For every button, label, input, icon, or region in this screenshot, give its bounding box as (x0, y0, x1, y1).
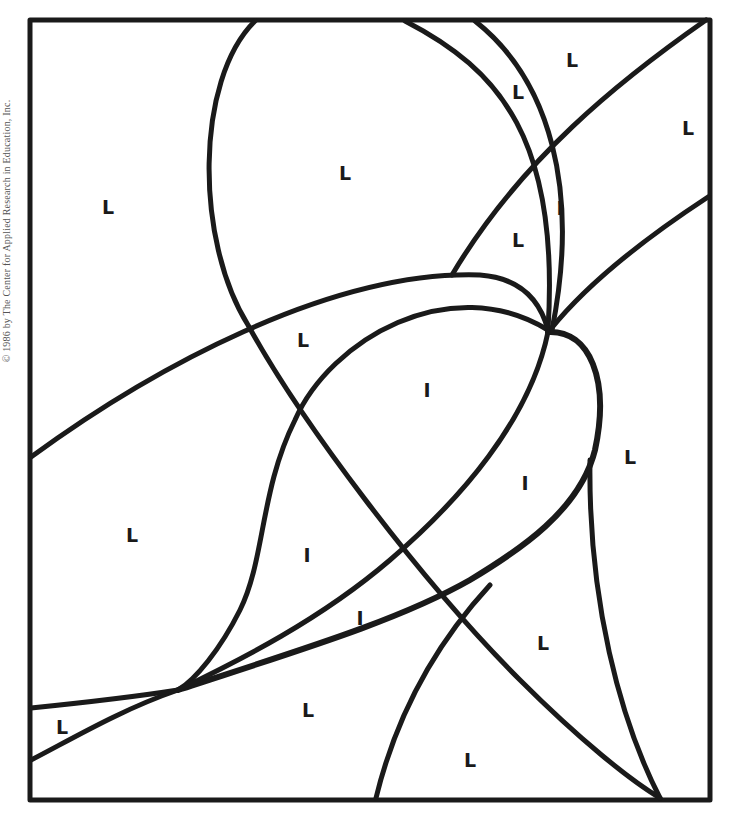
region-label: L (297, 331, 309, 350)
region-label: I (303, 546, 310, 565)
region-label: I (556, 199, 563, 218)
region-label: L (537, 634, 549, 653)
region-label: L (302, 701, 314, 720)
curve-right-drop (590, 460, 660, 798)
region-label: I (521, 474, 528, 493)
region-label: L (464, 751, 476, 770)
line-diagonal-right (550, 197, 708, 330)
region-label: L (624, 448, 636, 467)
region-label: I (356, 609, 363, 628)
region-label: I (423, 381, 430, 400)
region-label: L (682, 119, 694, 138)
region-label: L (566, 51, 578, 70)
region-label: L (102, 198, 114, 217)
region-label: L (512, 83, 524, 102)
region-label: L (512, 231, 524, 250)
frame-border (30, 20, 710, 800)
curve-left-loop (209, 21, 660, 798)
line-diagonal-top (452, 20, 706, 275)
worksheet-page: © 1986 by The Center for Applied Researc… (0, 0, 737, 827)
region-label: L (56, 718, 68, 737)
region-label: L (339, 164, 351, 183)
region-label: L (126, 526, 138, 545)
puzzle-drawing (0, 0, 737, 827)
